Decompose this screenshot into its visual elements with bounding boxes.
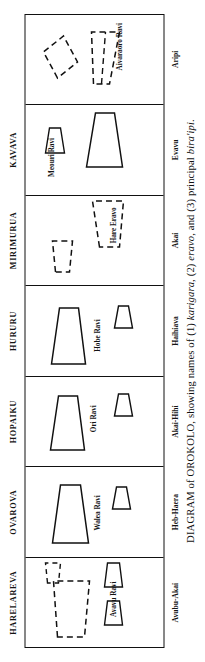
shape-label-avavu-ravi: Avavu Ravi (109, 581, 117, 617)
eravo-shape-dashed-small (49, 235, 77, 275)
column-footer-aripi: Aripi (166, 14, 184, 105)
shape-label-walea-ravi: Walea Ravi (93, 495, 101, 530)
caption-term-karigara: karigara (184, 282, 195, 320)
cell-hopaiku: Ori Ravi (25, 376, 163, 466)
column-header-aripi (2, 14, 24, 105)
shape-label-hare-eravo: Hare Eravo (109, 207, 117, 243)
cell-kavava: Meouri Ravi (25, 104, 163, 194)
column-footer-band: Avubu-Akai Heb-Haera Akai-Hihi Haihiava … (166, 14, 184, 648)
column-header-hopaiku: HOPAIKU (2, 376, 24, 467)
karigara-shape-dashed-small (43, 559, 63, 585)
karigara-shape-dashed-large (51, 577, 93, 639)
karigara-shape-solid-small (111, 302, 135, 330)
caption-suffix: . (184, 119, 195, 122)
cell-aripi: Aivaraoro Ravi (25, 15, 163, 104)
column-footer-haihiava: Haihiava (166, 286, 184, 377)
eravo-shape-dashed-tilted (41, 30, 81, 82)
figure-caption: DIAGRAM of OROKOLO, showing names of (1)… (184, 14, 195, 648)
karigara-shape-walea-large (47, 479, 93, 545)
column-header-hururu: HURURU (2, 286, 24, 377)
diagram-grid: Avavu Ravi Walea Ravi (24, 14, 164, 648)
column-footer-akai-hihi: Akai-Hihi (166, 376, 184, 467)
karigara-shape-solid-small (109, 483, 133, 511)
cell-harelareva: Avavu Ravi (25, 557, 163, 647)
column-header-kavava: KAVAVA (2, 105, 24, 196)
shape-label-aivaraoro-ravi: Aivaraoro Ravi (115, 23, 123, 71)
column-footer-avubu-akai: Avubu-Akai (166, 557, 184, 648)
cell-ovarova: Walea Ravi (25, 466, 163, 556)
column-footer-evavu: Evavu (166, 105, 184, 196)
karigara-shape-meouri-large (81, 107, 127, 169)
karigara-shape-solid-small (111, 390, 135, 418)
cell-mirimurua: Hare Eravo (25, 195, 163, 285)
column-header-ovarova: OVAROVA (2, 467, 24, 558)
cell-hururu: Hobe Ravi (25, 285, 163, 375)
column-footer-heb-haera: Heb-Haera (166, 467, 184, 558)
column-footer-akai: Akai (166, 195, 184, 286)
caption-term-eravo: eravo (184, 236, 195, 261)
karigara-shape-ori-large (45, 390, 89, 452)
shape-label-hobe-ravi: Hobe Ravi (93, 319, 101, 352)
orokolo-diagram: HARELAREVA OVAROVA HOPAIKU HURURU MIRIMU… (0, 0, 205, 662)
karigara-shape-hobe-large (45, 302, 91, 366)
column-header-mirimurua: MIRIMURUA (2, 195, 24, 286)
column-header-harelareva: HARELAREVA (2, 557, 24, 648)
shape-label-meouri-ravi: Meouri Ravi (47, 138, 55, 177)
caption-mid-1: , (2) (184, 261, 195, 282)
caption-prefix: DIAGRAM of OROKOLO, showing names of (1) (184, 320, 195, 543)
caption-term-biraipi: bira'ipi (184, 122, 195, 154)
shape-label-ori-ravi: Ori Ravi (89, 405, 97, 432)
column-header-band: HARELAREVA OVAROVA HOPAIKU HURURU MIRIMU… (2, 14, 24, 648)
rotated-figure-stage: HARELAREVA OVAROVA HOPAIKU HURURU MIRIMU… (0, 0, 205, 662)
caption-mid-2: , and (3) principal (184, 154, 195, 236)
